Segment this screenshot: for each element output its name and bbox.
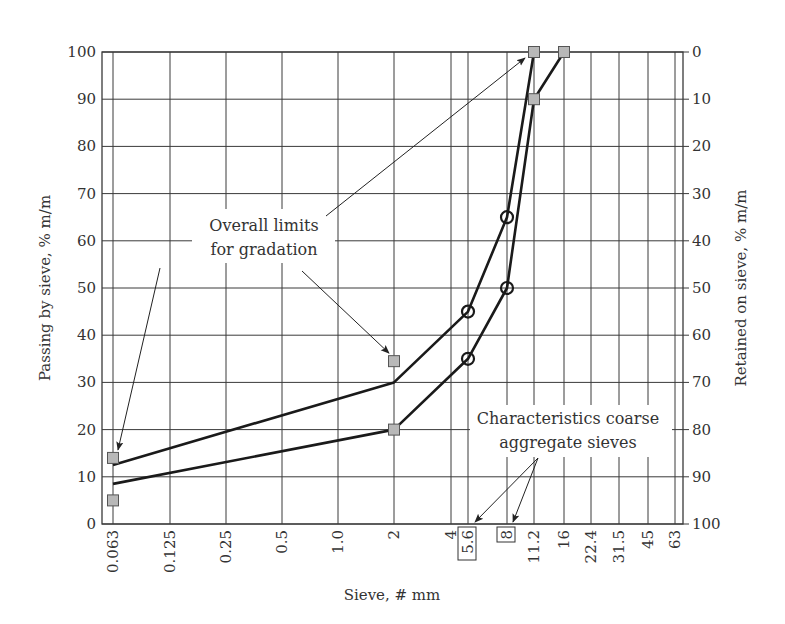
square-limit-marker [108,452,119,463]
x-tick-label: 11.2 [525,530,543,563]
x-tick-label: 63 [666,530,684,549]
y-tick-label-right: 20 [692,137,711,155]
y-tick-label-left: 10 [77,468,96,486]
square-limit-marker [389,356,400,367]
y-tick-label-right: 70 [692,373,711,391]
square-limit-marker [108,495,119,506]
x-tick-label: 2 [385,530,403,540]
y-tick-label-left: 70 [77,185,96,203]
x-tick-label: 31.5 [610,530,628,563]
square-limit-marker [529,94,540,105]
x-tick-label: 0.125 [161,530,179,573]
y-tick-label-right: 30 [692,185,711,203]
y-tick-label-left: 100 [67,43,96,61]
y-tick-label-right: 80 [692,421,711,439]
x-tick-label: 5.6 [459,530,477,554]
y-tick-label-right: 50 [692,279,711,297]
x-tick-label: 22.4 [582,530,600,563]
y-tick-label-right: 100 [692,515,721,533]
x-tick-label: 4 [442,530,460,540]
arrow-to-2mm-limit [302,271,389,353]
y-tick-label-left: 60 [77,232,96,250]
x-axis-ticks: 0.0630.1250.250.51.0245.6811.21622.431.5… [104,527,684,573]
x-tick-label: 16 [555,530,573,549]
y-axis-right-ticks: 1009080706050403020100 [692,43,721,533]
x-tick-label: 45 [639,530,657,549]
x-tick-label: 8 [498,530,516,540]
square-limit-marker [559,47,570,58]
y-tick-label-right: 60 [692,326,711,344]
y-tick-label-left: 20 [77,421,96,439]
x-tick-label: 0.063 [104,530,122,573]
y-axis-left-ticks: 0102030405060708090100 [67,43,96,533]
annotation-overall-limits: Overall limits [209,216,318,235]
x-axis-title: Sieve, # mm [344,586,441,604]
square-limit-marker [529,47,540,58]
arrow-to-0063-limit [118,268,160,450]
annotation-coarse-sieves: aggregate sieves [499,433,636,452]
chart-canvas: 0102030405060708090100 10090807060504030… [0,0,785,624]
square-limit-marker [389,424,400,435]
y-tick-label-right: 90 [692,468,711,486]
annotation-coarse-sieves: Characteristics coarse [477,409,659,428]
x-tick-label: 0.25 [217,530,235,563]
y-tick-label-right: 10 [692,90,711,108]
y-tick-label-right: 0 [692,43,702,61]
y-tick-label-left: 40 [77,326,96,344]
sieve-grading-chart: 0102030405060708090100 10090807060504030… [0,0,785,624]
annotation-overall-limits: for gradation [211,240,318,259]
x-tick-label: 0.5 [273,530,291,554]
arrow-to-11-2-limit [326,58,525,216]
y-tick-label-left: 50 [77,279,96,297]
y-tick-label-left: 30 [77,373,96,391]
y-tick-label-left: 0 [86,515,96,533]
y-axis-right-title: Retained on sieve, % m/m [732,189,750,386]
x-tick-label: 1.0 [329,530,347,554]
y-tick-label-left: 90 [77,90,96,108]
y-axis-left-title: Passing by sieve, % m/m [36,195,54,381]
y-tick-label-left: 80 [77,137,96,155]
y-tick-label-right: 40 [692,232,711,250]
